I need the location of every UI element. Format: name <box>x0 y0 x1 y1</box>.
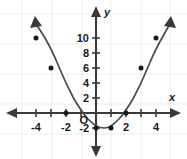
x-axis-label: x <box>168 91 176 103</box>
x-tick-label-neg2: -2 <box>61 121 71 133</box>
x-axis-right-arrow-icon <box>170 108 181 118</box>
data-point <box>34 36 39 41</box>
y-tick-label-pos8: 8 <box>83 47 89 59</box>
curve-right-arrow-icon <box>164 16 176 28</box>
x-axis <box>6 108 181 118</box>
grid-lines <box>0 0 187 159</box>
x-tick-label-pos2: 2 <box>123 121 129 133</box>
y-axis-bottom-arrow-icon <box>91 146 101 157</box>
y-tick-label-pos10: 10 <box>77 32 89 44</box>
y-axis-top-arrow-icon <box>91 6 101 17</box>
y-tick-label-pos4: 4 <box>83 77 90 89</box>
y-tick-label-pos6: 6 <box>83 62 89 74</box>
x-tick-label-neg4: -4 <box>31 121 42 133</box>
curve-left-arrow-icon <box>30 16 42 28</box>
data-point <box>139 66 144 71</box>
data-point <box>94 126 99 131</box>
data-point <box>124 111 129 116</box>
data-point <box>109 126 114 131</box>
graph-figure: -4 -2 2 4 -2 2 4 6 8 10 O x y <box>0 0 187 159</box>
coordinate-plane-chart: -4 -2 2 4 -2 2 4 6 8 10 O x y <box>0 0 187 159</box>
data-point <box>49 66 54 71</box>
y-axis-label: y <box>103 6 111 18</box>
data-point <box>154 36 159 41</box>
x-tick-label-pos4: 4 <box>153 121 160 133</box>
x-axis-left-arrow-icon <box>6 108 17 118</box>
y-tick-label-pos2: 2 <box>83 92 89 104</box>
origin-label: O <box>79 114 88 126</box>
data-point <box>64 111 69 116</box>
